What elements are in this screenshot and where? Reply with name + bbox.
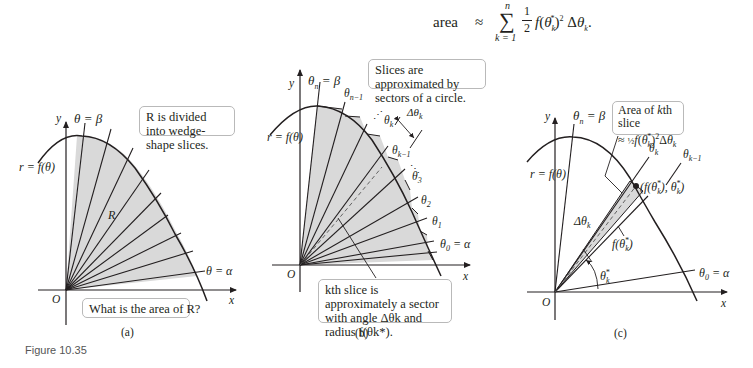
svg-text:⋰: ⋰ bbox=[373, 109, 383, 120]
theta-n-beta-label: θn = β bbox=[573, 108, 605, 126]
y-axis-label: y bbox=[56, 112, 61, 124]
formula-lhs: area bbox=[433, 14, 458, 31]
sample-point bbox=[633, 183, 639, 189]
callout-divided: R is divided into wedge-shape slices. bbox=[139, 106, 235, 136]
caption-c: (c) bbox=[614, 327, 627, 339]
theta-n-beta-label: θn = β bbox=[308, 73, 340, 91]
panel-a bbox=[38, 122, 236, 325]
area-formula: area ≈ n ∑ k = 1 1 2 f(θk*)2 Δθk. bbox=[433, 2, 753, 42]
delta-theta-k-label: Δθk bbox=[574, 214, 591, 230]
theta-n-1-label: θn−1 bbox=[344, 87, 363, 102]
theta-beta-label: θ = β bbox=[74, 111, 102, 127]
x-axis-label: x bbox=[463, 270, 468, 282]
curve-label: r = f(θ) bbox=[267, 130, 303, 145]
sum-sigma: ∑ bbox=[499, 8, 515, 34]
theta-k-label: θk bbox=[384, 114, 393, 129]
sum-lower: k = 1 bbox=[495, 32, 516, 43]
x-axis-label: x bbox=[721, 297, 726, 309]
theta-alpha-label: θ = α bbox=[206, 264, 232, 279]
radius-label: f(θk*) bbox=[612, 236, 633, 253]
theta-k-1-label: θk−1 bbox=[392, 144, 411, 159]
delta-theta-k-label: Δθk bbox=[407, 106, 422, 121]
curve-label: r = f(θ) bbox=[19, 160, 55, 175]
curve-label: r = f(θ) bbox=[530, 167, 566, 182]
caption-a: (a) bbox=[121, 326, 134, 338]
origin-label: O bbox=[542, 296, 550, 308]
theta-1-label: θ1 bbox=[432, 215, 442, 230]
y-axis-label: y bbox=[545, 110, 550, 122]
callout-area-kth: Area of kth slice≈ ½f(θk*)2Δθk bbox=[612, 101, 684, 135]
angle-label: θk* bbox=[600, 268, 609, 285]
region-label: R bbox=[108, 208, 115, 223]
theta-3-label: θ3 bbox=[412, 170, 422, 185]
theta-0-alpha-label: θ0 = α bbox=[440, 237, 470, 253]
callout-area-question: What is the area of R? bbox=[82, 298, 190, 318]
x-axis-label: x bbox=[229, 294, 234, 306]
fraction-den: 2 bbox=[524, 21, 530, 36]
theta-k-1-label: θk−1 bbox=[683, 148, 702, 163]
callout-kth-slice: kth slice is approximately a sector with… bbox=[318, 279, 452, 323]
theta-k-label: θk bbox=[649, 142, 658, 157]
caption-b: (b) bbox=[355, 327, 368, 339]
theta-2-label: θ2 bbox=[421, 194, 431, 209]
origin-label: O bbox=[52, 293, 60, 305]
figure-label: Figure 10.35 bbox=[25, 344, 87, 356]
formula-relation: ≈ bbox=[475, 14, 483, 31]
region-r bbox=[66, 136, 197, 290]
fraction-num: 1 bbox=[524, 4, 530, 19]
origin-label: O bbox=[287, 268, 295, 280]
y-axis-label: y bbox=[289, 77, 294, 89]
callout-sectors: Slices are approximated by sectors of a … bbox=[368, 59, 486, 89]
theta-0-alpha-label: θ0 = α bbox=[699, 266, 729, 282]
formula-body: f(θk*)2 Δθk. bbox=[535, 14, 592, 33]
point-label: (f(θk*), θk*) bbox=[640, 179, 684, 196]
